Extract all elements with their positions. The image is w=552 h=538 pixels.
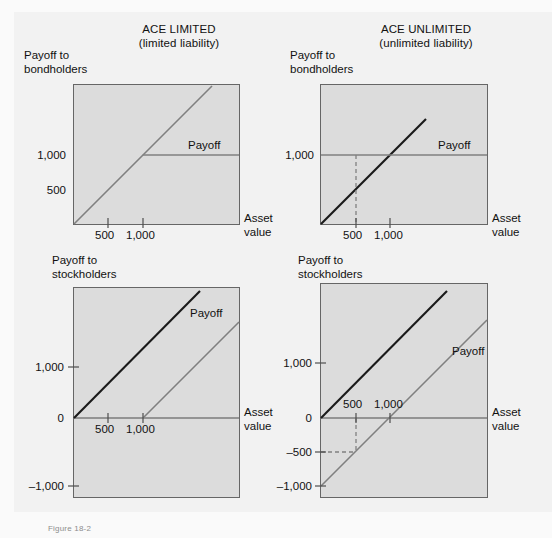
x-axis-caption-bottom-right: Asset value [492, 405, 521, 433]
x-axis-caption-line2: value [492, 225, 521, 239]
series-payoff-line [74, 155, 239, 224]
series-payoff-line [143, 322, 239, 418]
ytick-label-1000: 1,000 [262, 149, 314, 162]
series-label-payoff: Payoff [188, 139, 220, 152]
xtick-label-500: 500 [95, 423, 114, 436]
series-asset-value-line [321, 119, 426, 224]
xtick-label-500: 500 [343, 229, 362, 242]
ytick-label-1000: 1,000 [10, 361, 64, 374]
chart-ace-unlimited-stockholders: Payoff to stockholders 1,000 0 –500 [266, 250, 552, 520]
xtick-label-1000: 1,000 [374, 229, 403, 242]
chart-ace-limited-bondholders: Payoff to bondholders 1,000 500 500 1,00… [0, 0, 276, 269]
ytick-label-0: 0 [10, 412, 64, 425]
x-axis-caption-line1: Asset [492, 211, 521, 225]
series-label-payoff: Payoff [452, 345, 484, 358]
series-label-payoff: Payoff [438, 139, 470, 152]
xtick-label-500: 500 [95, 229, 114, 242]
ytick-label-1000: 1,000 [14, 149, 66, 162]
figure-page: ACE LIMITED (limited liability) ACE UNLI… [0, 0, 552, 538]
xtick-label-1000: 1,000 [126, 229, 155, 242]
figure-caption: Figure 18-2 [48, 524, 91, 534]
chart-ace-limited-stockholders: Payoff to stockholders 1,000 0 –1,000 50… [0, 250, 276, 520]
series-asset-value-line [74, 291, 200, 418]
x-axis-caption-line2: value [492, 419, 521, 433]
series-label-payoff: Payoff [190, 307, 222, 320]
xtick-label-1000: 1,000 [374, 398, 403, 411]
x-axis-caption-line1: Asset [492, 405, 521, 419]
xtick-label-1000: 1,000 [126, 423, 155, 436]
xtick-label-500: 500 [343, 398, 362, 411]
ytick-label-1000: 1,000 [258, 357, 312, 370]
ytick-label-neg-500: –500 [254, 446, 312, 459]
x-axis-caption-top-right: Asset value [492, 211, 521, 239]
ytick-label-0: 0 [258, 412, 312, 425]
ytick-label-neg-1000: –1,000 [253, 480, 312, 493]
ytick-label-neg-1000: –1,000 [6, 480, 64, 493]
chart-ace-unlimited-bondholders: Payoff to bondholders 1,000 500 1,000 Pa… [266, 0, 552, 269]
ytick-label-500: 500 [14, 184, 66, 197]
